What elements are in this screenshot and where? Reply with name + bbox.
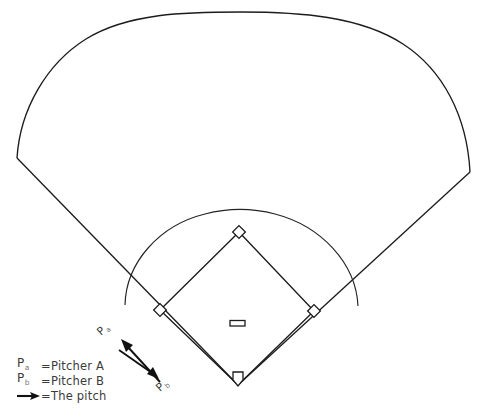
left-foul-line: [17, 158, 238, 385]
legend-row-pitcher-b: Pb = Pitcher B: [17, 373, 167, 388]
arrow-right-icon-svg: [17, 390, 41, 402]
right-foul-line: [238, 172, 470, 385]
legend-key-sub-b: b: [25, 378, 30, 387]
baseball-field-diagram: P a P b Pa = Pitcher A Pb = Pitcher B: [0, 0, 483, 417]
legend-key-pitcher-b: Pb: [17, 372, 41, 389]
legend-label-the-pitch: The pitch: [51, 389, 106, 403]
outfield-fence: [17, 12, 470, 172]
legend-key-letter-b: P: [17, 371, 24, 385]
field-svg: P a P b: [0, 0, 483, 417]
legend: Pa = Pitcher A Pb = Pitcher B = The pitc…: [17, 358, 167, 403]
legend-row-pitcher-a: Pa = Pitcher A: [17, 358, 167, 373]
legend-label-pitcher-a: Pitcher A: [51, 359, 104, 373]
legend-key-letter-a: P: [17, 356, 24, 370]
legend-row-the-pitch: = The pitch: [17, 388, 167, 403]
infield-grass-arc: [125, 210, 358, 307]
pitchers-rubber: [230, 321, 245, 327]
home-plate: [233, 372, 243, 386]
arrow-right-icon: [17, 390, 41, 402]
legend-equals-a: =: [41, 359, 51, 373]
legend-label-pitcher-b: Pitcher B: [51, 374, 104, 388]
infield-diamond-path: [160, 232, 314, 385]
marker-pitcher-a: P a: [94, 321, 112, 340]
legend-equals-pitch: =: [41, 389, 51, 403]
legend-equals-b: =: [41, 374, 51, 388]
